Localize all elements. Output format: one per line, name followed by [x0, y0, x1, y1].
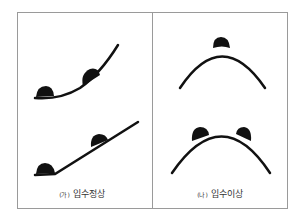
- panel-a-mark: (가): [59, 191, 70, 198]
- bump-icon: [236, 127, 251, 141]
- panel-b-bottom-diagram: [172, 127, 270, 173]
- panel-b-caption: (나)입수이상: [197, 187, 243, 200]
- panel-a-caption: (가)입수정상: [59, 187, 105, 200]
- panel-a-text: 입수정상: [73, 189, 105, 199]
- panel-b-text: 입수이상: [211, 189, 243, 199]
- panel-b-top-diagram: [180, 37, 265, 88]
- panel-a-top-diagram: [35, 45, 118, 98]
- panel-b-mark: (나): [197, 191, 208, 198]
- panel-a-bottom-diagram: [35, 122, 138, 175]
- bump-icon: [213, 37, 230, 48]
- bump-icon: [36, 163, 55, 174]
- bump-icon: [82, 69, 100, 86]
- bump-icon: [36, 86, 54, 97]
- diagram-art: [0, 0, 305, 224]
